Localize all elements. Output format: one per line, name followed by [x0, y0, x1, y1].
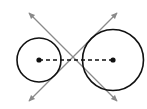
tangent-circles-diagram — [0, 0, 147, 109]
diagram-canvas — [0, 0, 147, 109]
right-center-dot — [110, 57, 115, 62]
left-center-dot — [36, 57, 41, 62]
